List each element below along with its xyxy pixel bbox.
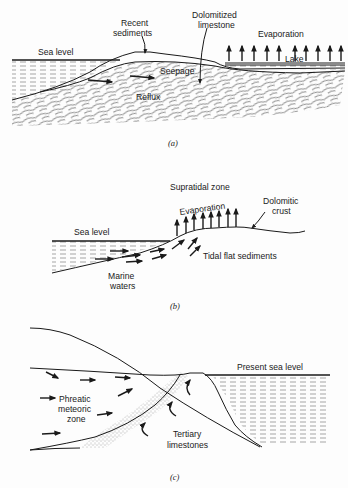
label-tidal-flat-sediments: Tidal flat sediments (203, 251, 277, 261)
label-tertiary-2: limestones (167, 440, 208, 450)
label-phreatic-1: Phreatic (59, 394, 91, 404)
label-reflux: Reflux (136, 92, 161, 102)
label-phreatic-2: meteoric (58, 404, 92, 414)
label-lake: Lake (285, 54, 304, 64)
label-present-sea-level: Present sea level (237, 362, 303, 372)
label-dolomitic-crust-1: Dolomitic (263, 196, 299, 206)
label-sea-level-a: Sea level (38, 47, 73, 57)
panel-c: Present sea level Phreatic meteoric zone… (30, 328, 330, 482)
label-recent-sediments-2: sediments (113, 28, 152, 38)
label-tertiary-1: Tertiary (173, 429, 202, 439)
label-marine-waters-1: Marine (108, 271, 134, 281)
label-phreatic-3: zone (67, 414, 86, 424)
panel-b: Supratidal zone Evaporation Dolomitic cr… (52, 182, 305, 311)
label-dolomitized-2: limestone (198, 20, 235, 30)
label-supratidal-zone: Supratidal zone (170, 182, 230, 192)
dolomitization-models-figure: Sea level Recent sediments Dolomitized l… (0, 0, 348, 488)
caption-b: (b) (170, 301, 180, 311)
caption-c: (c) (170, 472, 180, 482)
sea-water-b (52, 241, 170, 272)
label-dolomitic-crust-2: crust (272, 206, 291, 216)
label-dolomitized-1: Dolomitized (192, 10, 237, 20)
label-sea-level-b: Sea level (74, 227, 109, 237)
panel-a: Sea level Recent sediments Dolomitized l… (12, 10, 345, 148)
label-recent-sediments-1: Recent (121, 18, 149, 28)
sea-water-c (212, 375, 330, 444)
label-evaporation-a: Evaporation (258, 29, 304, 39)
label-marine-waters-2: waters (109, 281, 135, 291)
label-seepage: Seepage (160, 66, 195, 76)
caption-a: (a) (168, 138, 178, 148)
